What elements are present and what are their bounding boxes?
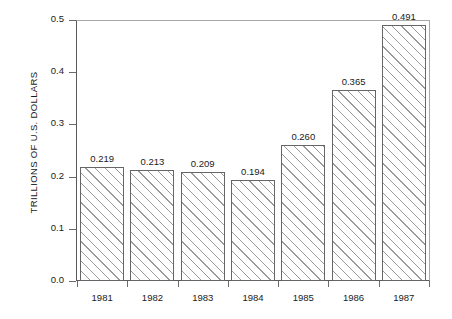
y-tick-label: 0.0 xyxy=(51,274,64,285)
y-axis-title: TRILLIONS OF U.S. DOLLARS xyxy=(22,0,44,285)
y-tick-mark xyxy=(69,124,76,125)
x-tick-mark xyxy=(228,281,229,287)
x-tick-mark xyxy=(328,281,329,287)
bar-value-label: 0.365 xyxy=(318,76,390,87)
bars-layer: 0.2190.2130.2090.1940.2600.3650.491 xyxy=(77,20,429,281)
bar xyxy=(231,180,275,281)
y-tick-mark xyxy=(69,177,76,178)
y-tick-mark xyxy=(69,229,76,230)
x-axis: 1981198219831984198519861987 xyxy=(77,281,429,319)
x-tick-mark xyxy=(127,281,128,287)
bar-value-label: 0.194 xyxy=(217,166,289,177)
x-tick-mark xyxy=(429,281,430,287)
y-tick-mark xyxy=(69,20,76,21)
y-tick-label: 0.3 xyxy=(51,117,64,128)
bar-value-label: 0.491 xyxy=(368,11,440,22)
y-tick-label: 0.2 xyxy=(51,170,64,181)
bar xyxy=(382,25,426,281)
bar xyxy=(80,167,124,281)
bar xyxy=(130,170,174,281)
bar-slot: 0.491 xyxy=(382,20,426,281)
y-tick-label: 0.5 xyxy=(51,13,64,24)
bar-chart: TRILLIONS OF U.S. DOLLARS 0.00.10.20.30.… xyxy=(0,0,452,319)
x-tick-mark xyxy=(77,281,78,287)
bar xyxy=(281,145,325,281)
bar-slot: 0.365 xyxy=(332,20,376,281)
y-tick-mark xyxy=(69,281,76,282)
bar-slot: 0.260 xyxy=(281,20,325,281)
bar xyxy=(181,172,225,281)
x-tick-mark xyxy=(379,281,380,287)
y-tick-mark xyxy=(69,72,76,73)
bar xyxy=(332,90,376,281)
x-tick-label: 1987 xyxy=(374,292,434,303)
y-tick-label: 0.4 xyxy=(51,65,64,76)
bar-value-label: 0.260 xyxy=(267,131,339,142)
x-tick-mark xyxy=(278,281,279,287)
x-tick-mark xyxy=(178,281,179,287)
bar-slot: 0.213 xyxy=(130,20,174,281)
bar-slot: 0.194 xyxy=(231,20,275,281)
y-tick-label: 0.1 xyxy=(51,222,64,233)
bar-slot: 0.219 xyxy=(80,20,124,281)
bar-slot: 0.209 xyxy=(181,20,225,281)
